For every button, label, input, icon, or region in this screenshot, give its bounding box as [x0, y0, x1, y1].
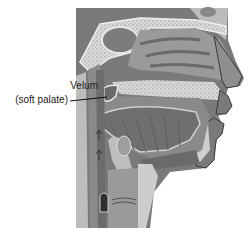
velum-label: Velum — [34, 80, 98, 91]
frontal-sinus — [200, 7, 216, 17]
soft-palate-label: (soft palate) — [6, 94, 68, 105]
trachea-opening — [100, 193, 108, 212]
head-sagittal-section-illustration — [0, 0, 252, 235]
anatomy-diagram: Velum (soft palate) — [0, 0, 252, 235]
cervical-spine — [76, 72, 88, 228]
thyroid-cartilage — [138, 164, 158, 228]
tonsil — [117, 136, 131, 156]
